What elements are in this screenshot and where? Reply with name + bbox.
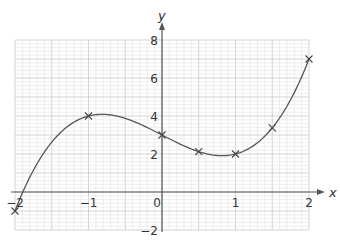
x-tick-label: 2 <box>305 196 313 210</box>
x-tick-label: 0 <box>153 196 161 210</box>
y-tick-label: −2 <box>140 224 158 238</box>
function-graph: −2−1012−22468xy <box>0 0 340 246</box>
y-axis-arrow-icon <box>159 22 165 30</box>
x-tick-label: −2 <box>6 196 24 210</box>
x-axis-arrow-icon <box>317 189 325 195</box>
x-tick-label: 1 <box>232 196 240 210</box>
y-axis-label: y <box>157 8 166 23</box>
y-tick-label: 4 <box>150 110 158 124</box>
y-tick-label: 6 <box>150 72 158 86</box>
y-tick-label: 2 <box>150 148 158 162</box>
y-tick-label: 8 <box>150 34 158 48</box>
x-tick-label: −1 <box>80 196 98 210</box>
x-axis-label: x <box>328 185 337 200</box>
axes <box>11 22 325 232</box>
